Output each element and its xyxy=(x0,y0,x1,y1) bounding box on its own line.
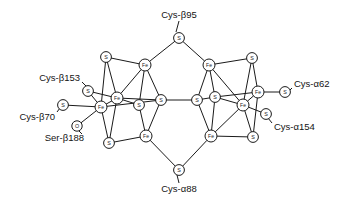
atom-Fe_rbot: Fe xyxy=(205,130,217,142)
atom-S_rt: S xyxy=(247,53,258,64)
bond-S_lc-Fe_lbot xyxy=(140,110,145,131)
atom-layer: SSFeSFeFeSOSSSFeSFeSSSFeFeSSFeS xyxy=(58,33,291,176)
atom-circle-Fe_lt xyxy=(139,59,151,71)
bond-Fe_rmu-S_rb xyxy=(254,98,258,132)
atom-Fe_rml: Fe xyxy=(237,99,249,111)
atom-S_lt: S xyxy=(101,52,112,63)
bond-Fe_lmu-Fe_lml xyxy=(106,101,112,105)
atom-S_rb: S xyxy=(248,132,259,143)
atom-circle-S_lt xyxy=(101,52,112,63)
atom-circle-S_lc xyxy=(134,100,145,111)
leader-line-cys-b95 xyxy=(176,21,179,32)
atom-circle-S_lcentral xyxy=(156,95,167,106)
atom-Fe_lt: Fe xyxy=(139,59,151,71)
bond-S_lt-Fe_lmu xyxy=(107,62,115,93)
bond-Fe_rt-S_rt xyxy=(215,59,248,64)
bond-Fe_rml-S_rb xyxy=(245,110,252,132)
atom-circle-Fe_rml xyxy=(237,99,249,111)
bond-S_rc-Fe_rml xyxy=(220,98,238,103)
bond-S_rc-Fe_rmu xyxy=(220,93,252,97)
atom-Fe_lbot: Fe xyxy=(140,130,152,142)
atom-S_b70: S xyxy=(58,100,69,111)
bond-Fe_lt-S_lc xyxy=(140,71,144,101)
atom-circle-S_rc xyxy=(210,92,221,103)
atom-circle-S_a154 xyxy=(261,109,272,120)
atom-Fe_rmu: Fe xyxy=(252,86,264,98)
bond-Fe_rbot-S_rb xyxy=(217,136,248,137)
atom-S_lc: S xyxy=(134,100,145,111)
atom-circle-S_rt xyxy=(247,53,258,64)
bond-S_lcentral-Fe_lbot xyxy=(148,105,159,131)
atom-circle-S_rcentral xyxy=(192,95,203,106)
atom-circle-S_b153 xyxy=(83,86,94,97)
bond-Fe_lbot-S_bot xyxy=(150,140,176,166)
bond-Fe_lml-S_b70 xyxy=(68,105,95,106)
bond-Fe_rt-S_rc xyxy=(210,71,214,93)
bond-Fe_lt-S_lcentral xyxy=(147,70,159,95)
residue-label-cys-b95: Cys-β95 xyxy=(161,9,197,20)
bond-S_bot-Fe_rbot xyxy=(182,140,207,166)
atom-S_a154: S xyxy=(261,109,272,120)
bond-Fe_lt-Fe_lmu xyxy=(121,69,142,93)
molecular-structure-svg: SSFeSFeFeSOSSSFeSFeSSSFeFeSSFeS Cys-β95C… xyxy=(0,0,343,204)
atom-circle-S_top xyxy=(174,33,185,44)
atom-circle-Fe_lml xyxy=(95,101,107,113)
atom-circle-Fe_rmu xyxy=(252,86,264,98)
bond-S_top-Fe_lt xyxy=(149,41,175,61)
bond-Fe_rmu-Fe_rml xyxy=(247,96,254,102)
atom-circle-S_a62 xyxy=(280,87,291,98)
atom-circle-O_b188 xyxy=(72,121,82,131)
bond-Fe_lmu-S_lb xyxy=(110,104,116,139)
bond-S_b153-Fe_lml xyxy=(91,95,97,103)
atom-S_bot: S xyxy=(174,165,185,176)
bond-S_rt-Fe_rmu xyxy=(253,63,257,87)
bond-S_rcentral-Fe_rbot xyxy=(199,105,209,131)
residue-label-cys-a62: Cys-α62 xyxy=(294,78,330,89)
atom-circle-S_rb xyxy=(248,132,259,143)
atom-S_rcentral: S xyxy=(192,95,203,106)
atom-circle-S_b70 xyxy=(58,100,69,111)
bond-Fe_lml-S_lb xyxy=(102,112,108,138)
atom-circle-S_bot xyxy=(174,165,185,176)
atom-S_b153: S xyxy=(83,86,94,97)
residue-label-cys-a88: Cys-α88 xyxy=(161,183,197,194)
bond-Fe_rml-Fe_rbot xyxy=(215,109,239,132)
atom-S_top: S xyxy=(174,33,185,44)
residue-label-cys-b153: Cys-β153 xyxy=(39,72,80,83)
bond-S_rcentral-S_rc xyxy=(202,98,210,99)
bond-S_rc-Fe_rbot xyxy=(212,102,215,130)
atom-S_a62: S xyxy=(280,87,291,98)
bond-Fe_rt-S_rcentral xyxy=(199,70,208,95)
femo-cofactor-diagram: SSFeSFeFeSOSSSFeSFeSSSFeFeSSFeS Cys-β95C… xyxy=(0,0,343,204)
atom-circle-Fe_rbot xyxy=(205,130,217,142)
atom-S_lb: S xyxy=(104,138,115,149)
bond-S_lb-Fe_lbot xyxy=(114,137,141,142)
atom-circle-Fe_rt xyxy=(203,59,215,71)
atom-circle-S_lb xyxy=(104,138,115,149)
atom-S_rc: S xyxy=(210,92,221,103)
residue-label-ser-b188: Ser-β188 xyxy=(45,132,84,143)
atom-Fe_lmu: Fe xyxy=(111,92,123,104)
residue-label-cys-b70: Cys-β70 xyxy=(19,111,55,122)
atom-Fe_rt: Fe xyxy=(203,59,215,71)
atom-S_lcentral: S xyxy=(156,95,167,106)
atom-Fe_lml: Fe xyxy=(95,101,107,113)
bond-Fe_rml-S_a154 xyxy=(248,107,261,112)
atom-circle-Fe_lbot xyxy=(140,130,152,142)
residue-label-cys-a154: Cys-α154 xyxy=(274,121,315,132)
bond-S_top-Fe_rt xyxy=(183,41,205,61)
bond-Fe_lml-O_b188 xyxy=(81,110,97,123)
bond-S_rt-Fe_rml xyxy=(244,63,251,100)
atom-circle-Fe_lmu xyxy=(111,92,123,104)
bond-S_lt-Fe_lt xyxy=(111,58,140,64)
atom-O_b188: O xyxy=(72,121,82,131)
